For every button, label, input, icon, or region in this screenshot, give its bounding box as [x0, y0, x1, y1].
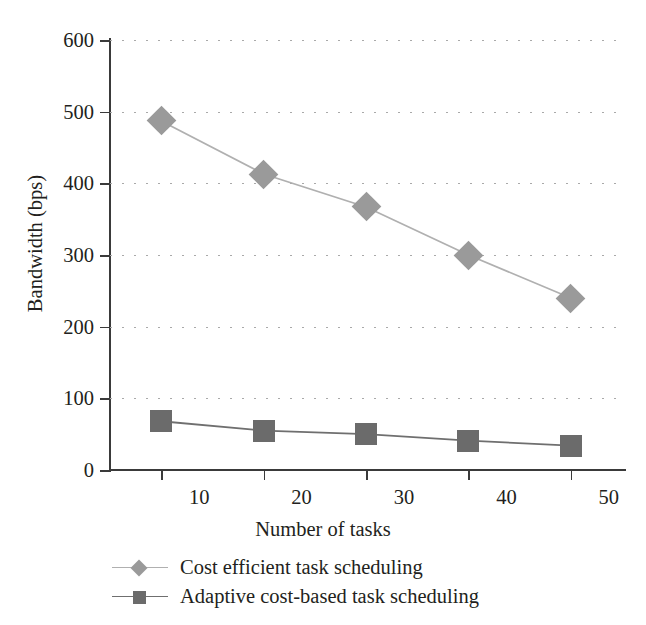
y-tick-mark [100, 470, 110, 472]
gridline [110, 398, 622, 399]
data-point-marker [150, 410, 172, 432]
y-tick-label: 0 [22, 460, 94, 481]
x-tick-mark [468, 470, 470, 480]
gridline [110, 40, 622, 41]
legend-item-cost-efficient: Cost efficient task scheduling [112, 553, 632, 582]
chart-legend: Cost efficient task scheduling Adaptive … [112, 553, 632, 611]
x-tick-label: 10 [169, 487, 229, 508]
gridline [110, 183, 622, 184]
y-tick-mark [100, 112, 110, 114]
x-tick-label: 50 [579, 487, 639, 508]
y-tick-mark [100, 398, 110, 400]
y-tick-mark [100, 40, 110, 42]
y-tick-label: 600 [22, 30, 94, 51]
line-chart: 0100200300400500600 1020304050 Bandwidth… [0, 0, 646, 625]
x-tick-mark [571, 470, 573, 480]
y-tick-label: 100 [22, 388, 94, 409]
x-tick-mark [264, 470, 266, 480]
legend-item-adaptive-cost-based: Adaptive cost-based task scheduling [112, 582, 632, 611]
gridline [110, 327, 622, 328]
x-tick-label: 30 [374, 487, 434, 508]
y-tick-mark [100, 255, 110, 257]
y-tick-mark [100, 183, 110, 185]
y-tick-mark [100, 327, 110, 329]
data-point-marker [355, 423, 377, 445]
x-tick-label: 40 [476, 487, 536, 508]
data-point-marker [560, 435, 582, 457]
x-tick-mark [161, 470, 163, 480]
gridline [110, 112, 622, 113]
data-point-marker [457, 430, 479, 452]
x-axis-title: Number of tasks [0, 518, 646, 541]
x-tick-mark [366, 470, 368, 480]
legend-label-cost-efficient: Cost efficient task scheduling [168, 557, 423, 578]
gridline [110, 255, 622, 256]
y-axis-title: Bandwidth (bps) [24, 114, 47, 374]
legend-label-adaptive-cost-based: Adaptive cost-based task scheduling [168, 586, 479, 607]
square-marker-icon [112, 587, 168, 607]
plot-area [110, 40, 622, 470]
diamond-marker-icon [112, 558, 168, 578]
x-tick-label: 20 [272, 487, 332, 508]
data-point-marker [253, 420, 275, 442]
